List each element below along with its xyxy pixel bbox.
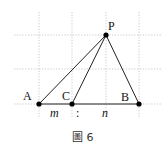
label-B: B — [121, 90, 129, 104]
label-m: m — [50, 106, 59, 120]
label-A: A — [23, 89, 32, 103]
figure-caption: 圖 6 — [72, 131, 94, 144]
point-A — [36, 101, 41, 106]
label-ratio: : — [76, 106, 79, 120]
segment-PC — [72, 35, 106, 104]
point-C — [69, 101, 74, 106]
point-B — [136, 101, 141, 106]
segment-PA — [39, 35, 106, 104]
label-n: n — [102, 106, 108, 120]
point-P — [103, 32, 108, 37]
geometry-figure: P A C B m : n 圖 6 — [0, 0, 168, 151]
label-P: P — [108, 19, 115, 33]
label-C: C — [62, 89, 70, 103]
